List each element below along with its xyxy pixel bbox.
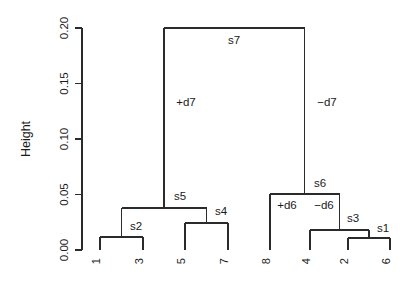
dendrogram-plot: 0.00 0.05 0.10 0.15 0.20 Height (0, 0, 414, 283)
edge-label-minus-d6: −d6 (314, 199, 334, 211)
y-tick-label-3: 0.15 (58, 72, 70, 94)
edge-label-plus-d6: +d6 (277, 199, 297, 211)
node-label-s4: s4 (215, 205, 228, 217)
leaf-label-6: 2 (338, 258, 350, 264)
edge-label-minus-d7: −d7 (317, 96, 337, 108)
y-tick-label-0: 0.00 (58, 239, 70, 261)
node-label-s2: s2 (130, 220, 142, 232)
leaf-label-3: 7 (218, 258, 230, 264)
y-tick-label-2: 0.10 (58, 128, 70, 150)
node-label-s6: s6 (314, 177, 326, 189)
y-tick-label-1: 0.05 (58, 183, 70, 205)
leaf-label-4: 8 (260, 258, 272, 264)
dendrogram-labels: s7 +d7 −d7 s5 s2 s4 s6 +d6 −d6 s3 s1 (130, 34, 389, 234)
leaf-label-7: 6 (380, 258, 392, 264)
y-axis-title: Height (19, 120, 33, 157)
node-label-s1: s1 (377, 222, 389, 234)
leaf-label-0: 1 (90, 258, 102, 264)
edge-label-plus-d7: +d7 (176, 96, 196, 108)
leaf-label-1: 3 (133, 258, 145, 264)
node-label-s7: s7 (228, 34, 240, 46)
dendrogram-canvas: 0.00 0.05 0.10 0.15 0.20 Height (0, 0, 414, 283)
leaf-labels: 1 3 5 7 8 4 2 6 (90, 258, 392, 264)
leaf-label-5: 4 (300, 258, 312, 264)
leaf-label-2: 5 (175, 258, 187, 264)
node-label-s3: s3 (347, 212, 359, 224)
y-axis: 0.00 0.05 0.10 0.15 0.20 Height (19, 17, 82, 261)
node-label-s5: s5 (174, 190, 186, 202)
y-tick-label-4: 0.20 (58, 17, 70, 39)
